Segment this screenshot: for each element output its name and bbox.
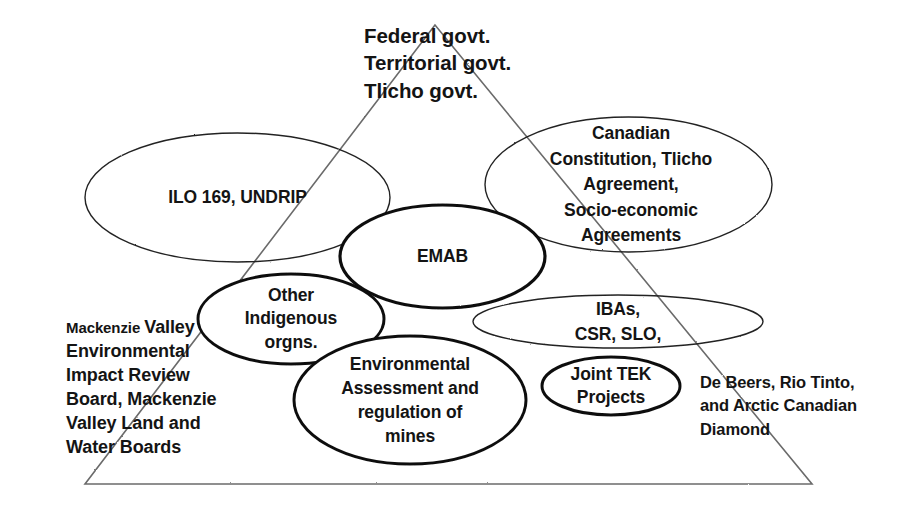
mining-companies-text: De Beers, Rio Tinto, and Arctic Canadian…: [700, 371, 915, 441]
mackenzie-lead-word: Mackenzie: [66, 319, 144, 336]
diagram-canvas: Federal govt. Territorial govt. Tlicho g…: [0, 0, 916, 518]
mackenzie-valley-boards-text: Mackenzie Valley Environmental Impact Re…: [66, 316, 281, 460]
ellipse-label-environmental-assessment: Environmental Assessment and regulation …: [300, 343, 520, 457]
ellipse-label-ibas-csr-slo: IBAs, CSR, SLO,: [473, 295, 763, 348]
mackenzie-rest-text: Valley Environmental Impact Review Board…: [66, 317, 216, 457]
ellipse-label-joint-tek-projects: Joint TEK Projects: [545, 358, 677, 414]
apex-government-levels-label: Federal govt. Territorial govt. Tlicho g…: [364, 22, 511, 104]
